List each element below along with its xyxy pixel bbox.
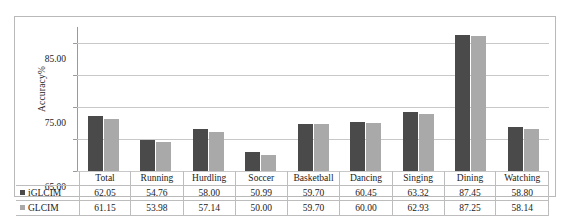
value-cell: 87.25 [444,201,496,214]
value-cell: 53.98 [131,201,183,214]
category-header-cell: Singing [392,171,444,186]
bar-group [392,27,444,171]
bar [140,140,155,171]
y-axis-tick-label: 75.00 [45,118,66,128]
value-cell: 57.14 [183,201,235,214]
table-corner-cell [16,171,79,186]
category-header-cell: Watching [496,171,549,186]
plot-area: 45.0055.0065.0075.0085.00 [77,27,549,171]
legend-swatch-icon [20,205,25,210]
value-cell: 58.14 [496,201,549,214]
y-axis-tick-label: 85.00 [45,54,66,64]
y-axis-title: Accuracy% [37,0,49,29]
value-cell: 61.15 [79,201,131,214]
value-cell: 62.05 [79,186,131,201]
table-row: GLCIM61.1553.9857.1450.0059.7060.0062.93… [16,201,549,214]
bar-group [234,27,286,171]
value-cell: 87.45 [444,186,496,201]
category-header-cell: Basketball [287,171,340,186]
table-row: iGLCIM62.0554.7658.0050.9959.7060.4563.3… [16,186,549,201]
chart-container: Accuracy% 45.0055.0065.0075.0085.00 Tota… [14,16,556,197]
value-cell: 62.93 [392,201,444,214]
bar [88,116,103,171]
bar-group [339,27,391,171]
bar [314,124,329,171]
bar [104,119,119,171]
value-cell: 58.00 [183,186,235,201]
category-header-cell: Hurdling [183,171,235,186]
legend-swatch-icon [20,190,25,195]
bar-group [497,27,549,171]
bar [350,122,365,171]
legend-entry-glcim[interactable]: GLCIM [16,201,79,214]
bar-group [129,27,181,171]
bar [508,127,523,171]
value-cell: 60.00 [340,201,392,214]
value-cell: 63.32 [392,186,444,201]
legend-label: GLCIM [28,203,59,213]
bar [209,132,224,171]
category-header-cell: Total [79,171,131,186]
value-cell: 50.99 [235,186,287,201]
value-cell: 54.76 [131,186,183,201]
value-cell: 59.70 [287,201,340,214]
category-header-cell: Dining [444,171,496,186]
bar [298,124,313,171]
bar [156,142,171,171]
bar-group [77,27,129,171]
data-table: TotalRunningHurdlingSoccerBasketballDanc… [16,171,549,213]
table-header-row: TotalRunningHurdlingSoccerBasketballDanc… [16,171,549,186]
bar [366,123,381,171]
value-cell: 50.00 [235,201,287,214]
bar [403,112,418,171]
bar [455,35,470,171]
value-cell: 58.80 [496,186,549,201]
bar [261,155,276,171]
value-cell: 59.70 [287,186,340,201]
category-header-cell: Running [131,171,183,186]
bar [419,114,434,171]
y-axis-title-label: Accuracy% [37,29,47,149]
bar [471,36,486,171]
bar-group [182,27,234,171]
value-cell: 60.45 [340,186,392,201]
bar-group [444,27,496,171]
bar [524,129,539,171]
legend-entry-iglcim[interactable]: iGLCIM [16,186,79,201]
bar [193,129,208,171]
legend-label: iGLCIM [28,188,61,198]
category-header-cell: Dancing [340,171,392,186]
bar [245,152,260,171]
category-header-cell: Soccer [235,171,287,186]
bar-group [287,27,339,171]
